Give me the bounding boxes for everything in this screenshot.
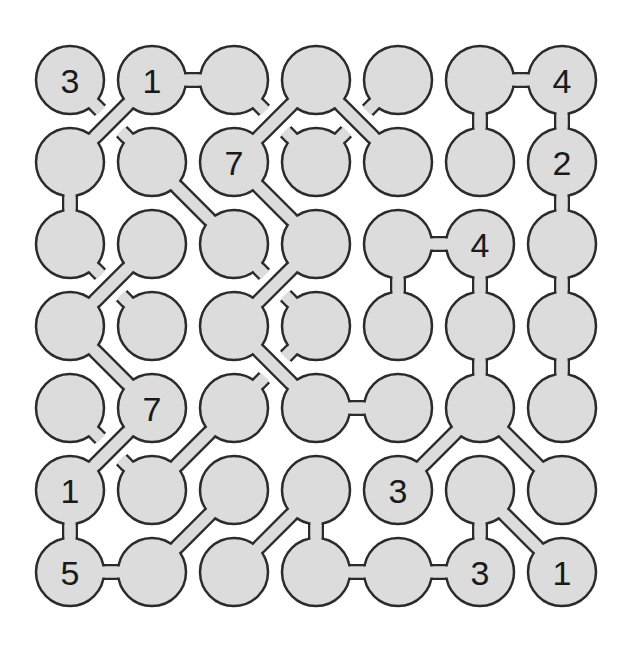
island-r4-c6[interactable]	[528, 374, 596, 442]
bridge-stub-joint	[122, 460, 132, 470]
bridge-joint	[254, 510, 296, 552]
bridge-joint	[418, 428, 460, 470]
bridge-stub-joint	[336, 132, 346, 142]
clue-number: 2	[553, 144, 572, 182]
clue-number: 7	[225, 144, 244, 182]
island-r6-c4[interactable]	[364, 538, 432, 606]
island-r3-c6[interactable]	[528, 292, 596, 360]
clue-number: 3	[471, 554, 490, 592]
bridge-stub-joint	[90, 428, 100, 438]
bridge-joint	[172, 182, 214, 224]
bridge-joint	[500, 510, 542, 552]
island-r2-c6[interactable]	[528, 210, 596, 278]
island-r0-c5[interactable]	[446, 46, 514, 114]
clue-number: 4	[553, 62, 572, 100]
bridge-joint	[500, 428, 542, 470]
bridge-stub-joint	[286, 132, 296, 142]
bridge-stub-joint	[286, 296, 296, 306]
island-r3-c5[interactable]	[446, 292, 514, 360]
bridge-joint	[254, 182, 296, 224]
bridge-stub-joint	[90, 264, 100, 274]
island-r6-c3[interactable]	[282, 538, 350, 606]
island-r3-c4[interactable]	[364, 292, 432, 360]
clue-number: 3	[389, 472, 408, 510]
bridge-stub-joint	[122, 296, 132, 306]
bridge-joint	[172, 428, 214, 470]
island-r4-c4[interactable]	[364, 374, 432, 442]
bridge-stub-joint	[90, 100, 100, 110]
bridge-stub-joint	[254, 378, 264, 388]
clue-number: 1	[143, 62, 162, 100]
bridge-stub-joint	[254, 264, 264, 274]
clue-number: 1	[61, 472, 80, 510]
island-r2-c4[interactable]	[364, 210, 432, 278]
bridge-stub-joint	[122, 132, 132, 142]
clue-number: 4	[471, 226, 490, 264]
bridge-stub-joint	[254, 100, 264, 110]
clue-number: 7	[143, 390, 162, 428]
clue-number: 1	[553, 554, 572, 592]
clue-number: 5	[61, 554, 80, 592]
bridge-joint	[172, 510, 214, 552]
island-r1-c5[interactable]	[446, 128, 514, 196]
bridge-joint	[90, 346, 132, 388]
puzzle-board: 314724713531	[0, 0, 624, 660]
clue-number: 3	[61, 62, 80, 100]
bridge-stub-joint	[368, 100, 378, 110]
bridge-stub-joint	[286, 346, 296, 356]
